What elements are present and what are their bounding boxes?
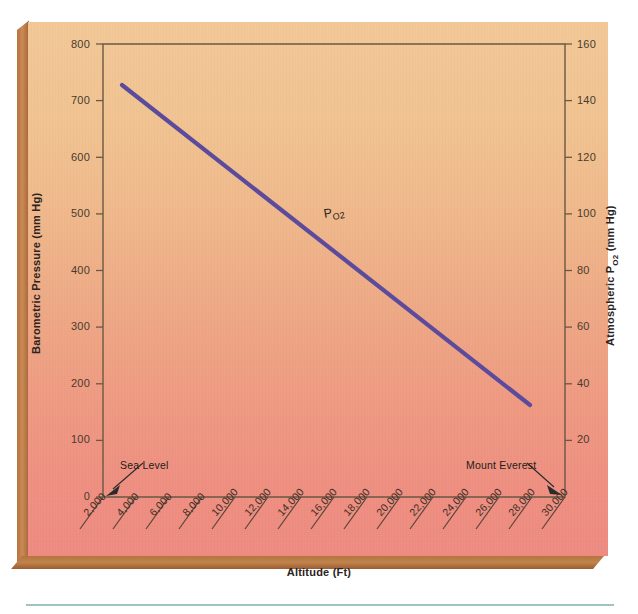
y-axis-title: Barometric Pressure (mm Hg): [30, 194, 42, 354]
series-label-po2: PO2: [323, 204, 346, 224]
po2-data-line: [122, 85, 530, 405]
y-axis-right-ticks: [565, 44, 572, 440]
y2-tick-label: 160: [577, 38, 596, 50]
y2-tick-label: 140: [577, 94, 596, 106]
y-tick-label: 0: [56, 490, 90, 502]
y2-axis-title-main: Atmospheric P: [604, 266, 616, 346]
axis-frame: [103, 44, 565, 497]
y2-tick-label: 20: [577, 433, 590, 445]
y-tick-label: 800: [56, 38, 90, 50]
y-tick-label: 600: [56, 151, 90, 163]
y2-tick-label: 120: [577, 151, 596, 163]
y-tick-label: 100: [56, 433, 90, 445]
figure-root: 0 100 200 300 400 500 600 700 800 20 40 …: [0, 0, 638, 614]
y-tick-label: 300: [56, 320, 90, 332]
plot-canvas: [0, 0, 638, 614]
y2-tick-label: 80: [577, 264, 590, 276]
y2-axis-title-sub-2: 2: [611, 255, 620, 260]
y-axis-left-ticks: [96, 44, 103, 497]
y2-tick-label: 60: [577, 320, 590, 332]
annotation-mount-everest: Mount Everest: [466, 459, 536, 471]
y-tick-label: 700: [56, 94, 90, 106]
y-tick-label: 500: [56, 207, 90, 219]
y-tick-label: 400: [56, 264, 90, 276]
x-axis-title: Altitude (Ft): [0, 566, 638, 578]
y2-axis-title: Atmospheric PO2 (mm Hg): [604, 191, 619, 361]
y2-tick-label: 100: [577, 207, 596, 219]
y2-axis-title-sub-o: O: [611, 259, 620, 265]
y2-tick-label: 40: [577, 377, 590, 389]
y-tick-label: 200: [56, 377, 90, 389]
y2-axis-title-units: (mm Hg): [604, 205, 616, 254]
annotation-sea-level: Sea Level: [120, 459, 169, 471]
